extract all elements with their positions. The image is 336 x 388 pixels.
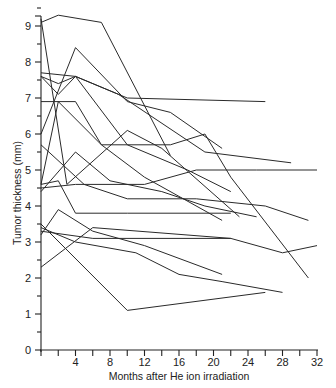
y-tick-label: 1 (25, 308, 31, 320)
x-tick-label: 32 (311, 356, 323, 368)
series-line-patient-5 (41, 73, 291, 163)
x-ticks: 48121620242832 (41, 350, 323, 368)
x-tick-label: 16 (173, 356, 185, 368)
series-line-patient-11 (41, 170, 317, 188)
series-line-patient-13 (41, 210, 222, 275)
y-tick-label: 6 (25, 128, 31, 140)
x-axis-title: Months after He ion irradiation (109, 370, 250, 382)
series-line-patient-12 (41, 181, 231, 213)
x-tick-label: 8 (107, 356, 113, 368)
x-tick-label: 24 (242, 356, 254, 368)
y-tick-label: 3 (25, 236, 31, 248)
y-axis-title: Tumor thickness (mm) (11, 141, 23, 245)
y-tick-label: 4 (25, 200, 31, 212)
x-tick-label: 4 (72, 356, 78, 368)
tumor-thickness-chart: 0123456789 48121620242832 Months after H… (0, 0, 336, 388)
series-line-patient-8 (41, 102, 308, 278)
y-tick-label: 5 (25, 164, 31, 176)
x-tick-label: 12 (138, 356, 150, 368)
y-ticks: 0123456789 (25, 8, 41, 356)
series-lines (41, 15, 317, 310)
y-tick-label: 9 (25, 20, 31, 32)
y-tick-label: 0 (25, 344, 31, 356)
series-line-patient-4 (41, 76, 265, 101)
series-line-patient-15 (41, 224, 265, 310)
y-tick-label: 7 (25, 92, 31, 104)
x-tick-label: 28 (276, 356, 288, 368)
series-line-patient-6 (41, 76, 231, 191)
series-line-patient-16 (41, 228, 317, 268)
x-tick-label: 20 (207, 356, 219, 368)
y-tick-label: 2 (25, 272, 31, 284)
series-line-patient-17 (41, 231, 231, 238)
y-tick-label: 8 (25, 56, 31, 68)
